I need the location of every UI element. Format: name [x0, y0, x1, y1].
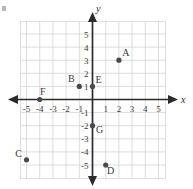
coordinate-plane: -5-4-3-2-11234554321-1-2-3-4-5 ABCDEFG x…: [0, 0, 193, 189]
y-tick-label: -3: [81, 134, 89, 144]
point-label-b: B: [68, 73, 75, 84]
y-tick-label: -1: [81, 108, 89, 118]
point-label-d: D: [107, 165, 114, 176]
y-tick-label: -4: [81, 147, 89, 157]
y-axis-label: y: [95, 3, 101, 14]
x-tick-label: 3: [130, 104, 135, 114]
y-tick-label: -2: [81, 121, 89, 131]
y-tick-label: 3: [84, 56, 89, 66]
point-label-g: G: [96, 124, 103, 135]
x-axis-arrow-left: [8, 95, 18, 104]
x-tick-label: 4: [143, 104, 148, 114]
x-tick-label: 1: [103, 104, 108, 114]
x-axis-arrow-right: [168, 95, 178, 104]
y-tick-label: 5: [84, 30, 89, 40]
axes: [8, 12, 178, 186]
x-tick-label: -4: [36, 104, 44, 114]
x-tick-label: -2: [62, 104, 70, 114]
data-point-c: [24, 157, 29, 162]
point-label-f: F: [40, 86, 46, 97]
point-label-c: C: [15, 148, 22, 159]
data-point-f: [37, 97, 42, 102]
data-point-b: [77, 84, 82, 89]
x-axis-label: x: [180, 94, 186, 105]
x-tick-label: -5: [23, 104, 31, 114]
y-tick-label: 2: [84, 69, 89, 79]
y-axis-arrow-down: [88, 176, 97, 186]
data-point-e: [90, 84, 95, 89]
data-point-a: [116, 58, 121, 63]
y-tick-label: 1: [84, 82, 89, 92]
point-label-a: A: [122, 47, 130, 58]
data-points: ABCDEFG: [15, 47, 130, 176]
y-tick-label: -5: [81, 161, 89, 171]
x-tick-label: -3: [49, 104, 57, 114]
point-label-e: E: [95, 74, 101, 85]
data-point-g: [90, 123, 95, 128]
x-tick-label: 2: [117, 104, 122, 114]
y-tick-label: 4: [84, 43, 89, 53]
x-tick-label: 5: [156, 104, 161, 114]
